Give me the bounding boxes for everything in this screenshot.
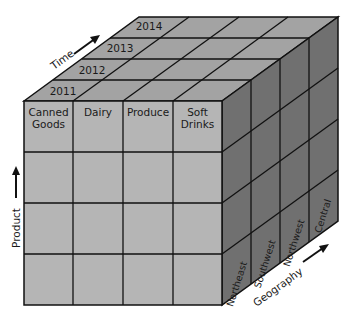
product-label-dairy: Dairy — [84, 106, 112, 118]
time-label-2013: 2013 — [107, 42, 134, 54]
time-arrowhead-icon — [90, 35, 100, 44]
time-label-2011: 2011 — [50, 85, 77, 97]
data-cube-diagram: 2011 2012 2013 2014 Canned Goods Dairy P… — [0, 0, 357, 326]
product-label-produce: Produce — [127, 106, 169, 118]
product-axis-label: Product — [10, 208, 22, 248]
time-label-2014: 2014 — [136, 20, 163, 32]
product-label-canned-goods-2: Goods — [32, 118, 65, 130]
geography-arrowhead-icon — [319, 244, 329, 253]
time-label-2012: 2012 — [79, 64, 106, 76]
product-label-canned-goods-1: Canned — [28, 106, 68, 118]
geography-axis-arrow-icon — [303, 248, 323, 262]
product-label-soft-drinks-2: Drinks — [181, 118, 215, 130]
product-arrowhead-icon — [12, 166, 20, 175]
product-axis: Product — [10, 166, 22, 248]
product-label-soft-drinks-1: Soft — [187, 106, 208, 118]
